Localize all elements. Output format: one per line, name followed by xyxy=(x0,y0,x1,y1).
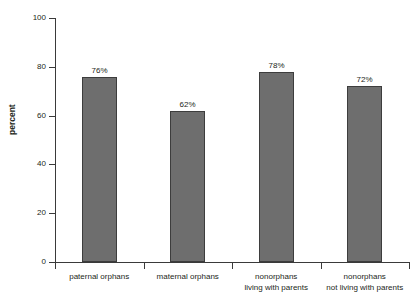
x-axis-category-label: paternal orphans xyxy=(55,272,144,283)
y-axis-tick xyxy=(49,164,55,165)
y-axis-tick-label: 20 xyxy=(37,209,46,217)
x-axis-tick xyxy=(232,262,233,269)
x-axis-category-label: nonorphansnot living with parents xyxy=(321,272,410,293)
bar-value-label: 76% xyxy=(70,66,129,75)
bar-value-label: 62% xyxy=(158,100,217,109)
y-axis-tick xyxy=(49,18,55,19)
x-axis-category-label-line: nonorphans xyxy=(232,272,321,283)
x-axis-tick xyxy=(144,262,145,269)
x-axis-category-label-line: nonorphans xyxy=(321,272,410,283)
y-axis-tick-label: 80 xyxy=(37,63,46,71)
bar xyxy=(82,77,117,262)
bar-value-label: 78% xyxy=(247,61,306,70)
y-axis-tick-label: 60 xyxy=(37,112,46,120)
y-axis-line xyxy=(55,18,56,263)
y-axis-tick-label: 100 xyxy=(33,14,46,22)
x-axis-tick xyxy=(321,262,322,269)
x-axis-category-label: maternal orphans xyxy=(144,272,233,283)
bar xyxy=(347,86,382,262)
x-axis-tick xyxy=(409,262,410,269)
y-axis-title: percent xyxy=(7,119,17,135)
y-axis-tick xyxy=(49,67,55,68)
bar xyxy=(170,111,205,262)
x-axis-category-label-line: not living with parents xyxy=(321,283,410,294)
x-axis-category-label-line: living with parents xyxy=(232,283,321,294)
bar xyxy=(259,72,294,262)
bar-chart: percent 020406080100 76%62%78%72% patern… xyxy=(0,0,419,296)
x-axis-category-label-line: paternal orphans xyxy=(55,272,144,283)
y-axis-tick-label: 0 xyxy=(42,258,46,266)
x-axis-tick xyxy=(55,262,56,269)
y-axis-tick-label: 40 xyxy=(37,160,46,168)
x-axis-category-label-line: maternal orphans xyxy=(144,272,233,283)
y-axis-tick xyxy=(49,213,55,214)
bar-value-label: 72% xyxy=(335,75,394,84)
y-axis-tick xyxy=(49,116,55,117)
x-axis-category-label: nonorphansliving with parents xyxy=(232,272,321,293)
